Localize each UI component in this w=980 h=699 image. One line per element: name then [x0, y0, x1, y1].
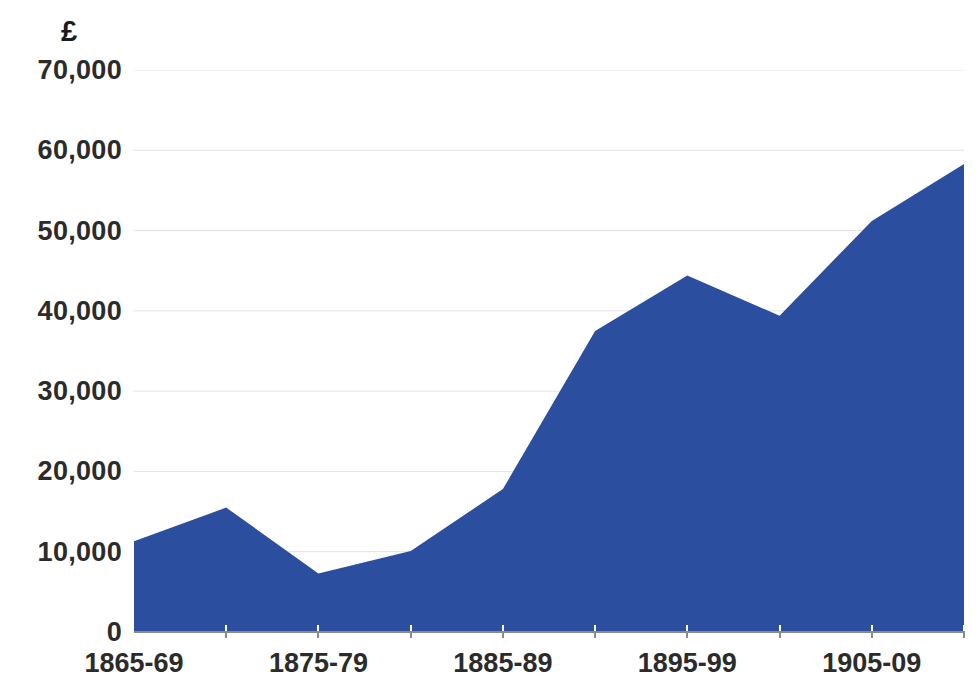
area-series-fill: [134, 164, 964, 632]
y-axis-tick-label: 40,000: [0, 297, 122, 325]
x-axis-tick-label: 1875-79: [238, 648, 398, 678]
x-axis-tick-label: 1865-69: [54, 648, 214, 678]
plot-area: [134, 70, 964, 632]
x-axis-tick-stem: [686, 631, 688, 638]
x-axis-tick-label: 1885-89: [423, 648, 583, 678]
x-axis-tick-stem: [871, 631, 873, 638]
y-axis-tick-label: 30,000: [0, 377, 122, 405]
y-axis-tick-label: 70,000: [0, 56, 122, 84]
x-axis-tick-stem: [317, 631, 319, 638]
x-axis-tick-stem: [502, 631, 504, 638]
x-axis-tick-stem: [779, 631, 781, 638]
x-axis-tick-stem: [963, 631, 965, 638]
x-axis-tick-stem: [594, 631, 596, 638]
y-axis-tick-label: 20,000: [0, 457, 122, 485]
x-axis-tick-label: 1905-09: [792, 648, 952, 678]
plot-svg: [134, 70, 964, 632]
y-axis-unit-label: £: [46, 14, 92, 48]
y-axis-tick-label: 60,000: [0, 136, 122, 164]
y-axis-tick-label: 0: [0, 618, 122, 646]
x-axis-tick-stem: [225, 631, 227, 638]
x-axis-line: [134, 631, 964, 633]
y-axis-tick-label: 50,000: [0, 217, 122, 245]
area-chart: £ 010,00020,00030,00040,00050,00060,0007…: [0, 0, 980, 699]
y-axis-tick-label: 10,000: [0, 538, 122, 566]
x-axis-tick-label: 1895-99: [607, 648, 767, 678]
x-axis-tick-stem: [410, 631, 412, 638]
